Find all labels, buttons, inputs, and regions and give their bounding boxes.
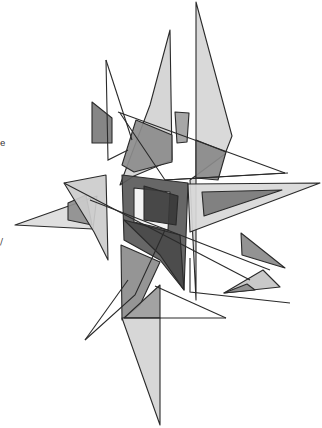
edge-text-fragment: /	[0, 237, 3, 247]
filled-polygons	[15, 2, 320, 425]
edge-text-fragment: e	[0, 138, 5, 148]
right-horizontal	[165, 173, 288, 180]
abstract-geometric-artwork	[0, 0, 322, 428]
left-dark-tab	[92, 102, 112, 143]
lower-spike-light	[122, 318, 160, 425]
small-right-triangle	[241, 233, 285, 268]
left-thin-spike	[106, 60, 128, 160]
small-gray-tab	[175, 112, 189, 143]
